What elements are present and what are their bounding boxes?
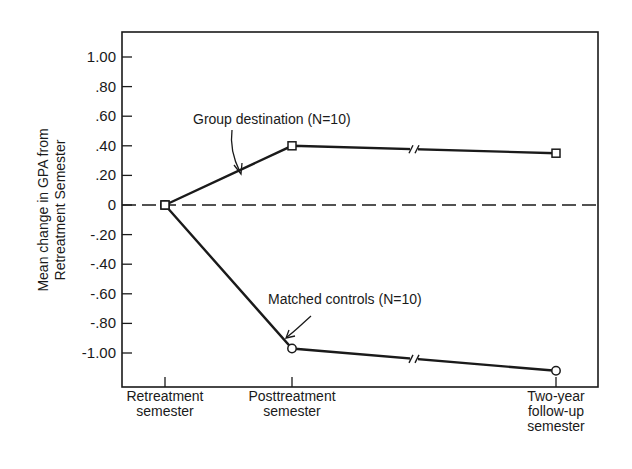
- x-tick-label: semester: [263, 403, 321, 419]
- x-tick-label: Posttreatment: [248, 388, 335, 404]
- annotation-arrow-matched-controls: [287, 316, 311, 337]
- y-tick-label: -.20: [90, 226, 116, 243]
- x-tick-label: Two-year: [527, 388, 585, 404]
- y-tick-label: .20: [95, 166, 116, 183]
- y-tick-label: -.40: [90, 255, 116, 272]
- series-line-matched-controls: [165, 205, 556, 371]
- y-tick-label: -.80: [90, 314, 116, 331]
- line-chart: 1.00.80.60.40.200-.20-.40-.60-.80-1.00 G…: [0, 0, 632, 469]
- annotation-group-destination: Group destination (N=10): [193, 111, 351, 127]
- square-marker-icon: [552, 149, 560, 157]
- y-axis-title-line-1: Mean change in GPA from: [35, 128, 51, 291]
- circle-marker-icon: [288, 344, 296, 352]
- y-tick-label: -.60: [90, 285, 116, 302]
- series-line-group-destination: [165, 146, 556, 205]
- y-tick-label: .60: [95, 107, 116, 124]
- x-tick-label: Retreatment: [126, 388, 203, 404]
- annotation-matched-controls: Matched controls (N=10): [268, 291, 422, 307]
- x-tick-label: semester: [527, 418, 585, 434]
- y-axis-title-line-2: Retreatment Semester: [52, 139, 68, 280]
- square-marker-icon: [161, 201, 169, 209]
- y-tick-label: 0: [108, 196, 116, 213]
- x-axis-ticks: [165, 377, 556, 387]
- circle-marker-icon: [552, 367, 560, 375]
- y-axis-title: Mean change in GPA from Retreatment Seme…: [35, 128, 68, 291]
- x-tick-label: follow-up: [528, 403, 584, 419]
- annotation-arrow-group-destination: [231, 130, 240, 172]
- axis-break-marks: [409, 144, 419, 364]
- x-tick-label: semester: [136, 403, 194, 419]
- y-tick-label: .80: [95, 78, 116, 95]
- y-tick-label: .40: [95, 137, 116, 154]
- y-tick-label: 1.00: [87, 48, 116, 65]
- y-tick-label: -1.00: [82, 344, 116, 361]
- series-lines: [161, 142, 560, 375]
- plot-frame: [122, 32, 598, 387]
- x-axis-labels: RetreatmentsemesterPosttreatmentsemester…: [126, 388, 585, 434]
- square-marker-icon: [288, 142, 296, 150]
